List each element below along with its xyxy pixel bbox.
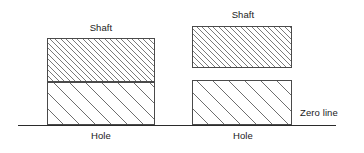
left-hole-label: Hole [91,131,111,141]
zero-line-label: Zero line [300,108,338,118]
right-shaft-tolerance-box [192,26,292,68]
left-hole-tolerance-box [47,82,155,125]
tolerance-zone-diagram: Shaft Hole Shaft Hole Zero line [0,0,364,153]
right-hole-label: Hole [233,131,253,141]
left-shaft-label: Shaft [90,23,113,33]
right-shaft-label: Shaft [232,10,255,20]
right-hole-tolerance-box [192,80,292,125]
zero-line [18,125,336,126]
left-shaft-tolerance-box [47,38,155,82]
